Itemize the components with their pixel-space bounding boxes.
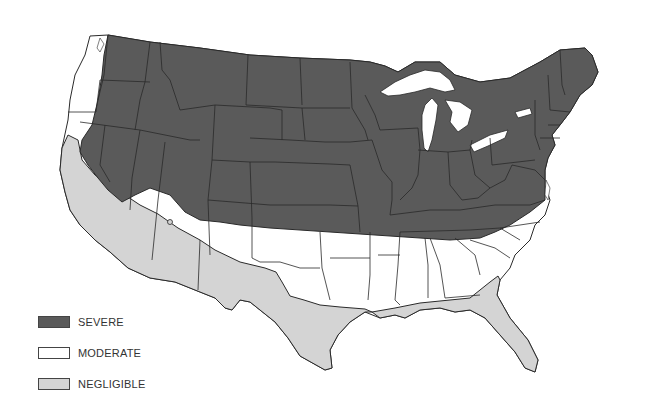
legend-label-severe: SEVERE (78, 316, 124, 328)
legend-item-moderate: MODERATE (38, 343, 145, 363)
legend: SEVERE MODERATE NEGLIGIBLE (38, 312, 145, 405)
negligible-swatch (38, 378, 70, 390)
legend-item-severe: SEVERE (38, 312, 145, 332)
legend-label-moderate: MODERATE (78, 347, 141, 359)
legend-item-negligible: NEGLIGIBLE (38, 374, 145, 394)
lake-dot (168, 220, 173, 225)
moderate-swatch (38, 347, 70, 359)
legend-label-negligible: NEGLIGIBLE (78, 378, 145, 390)
severe-swatch (38, 316, 70, 328)
